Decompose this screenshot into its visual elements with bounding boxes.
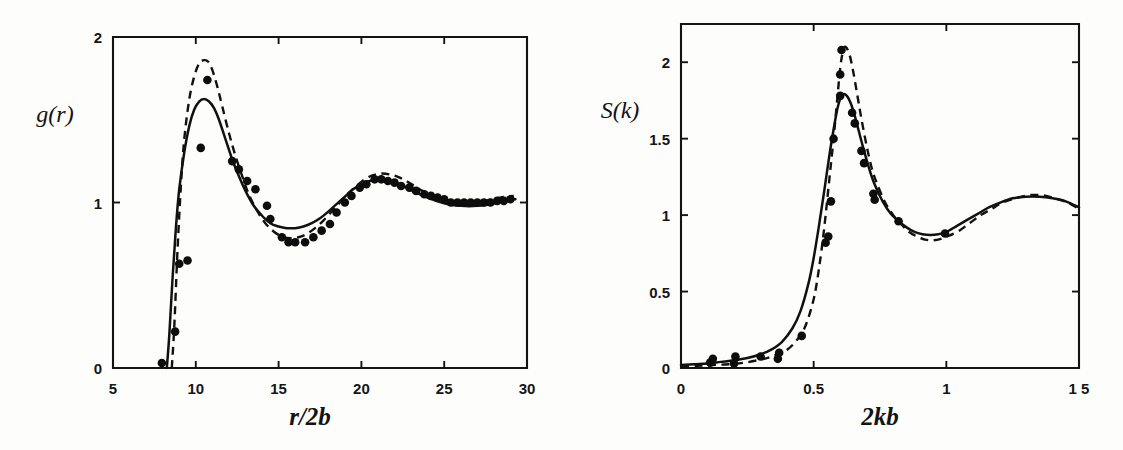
data-point — [301, 238, 310, 247]
y-axis-label: g(r) — [36, 101, 73, 127]
x-tick-label: 10 — [187, 380, 204, 397]
data-point — [775, 348, 784, 357]
x-tick-label: 5 — [109, 380, 117, 397]
right-labels-group: 00.511 500.511.52S(k)2kb — [601, 54, 1090, 430]
data-point — [870, 196, 879, 205]
data-point — [317, 226, 326, 235]
data-point — [171, 327, 180, 336]
x-tick-label: 0.5 — [803, 380, 824, 397]
data-point — [941, 229, 950, 238]
data-point — [827, 197, 836, 206]
curve-solid — [167, 99, 516, 368]
x-tick-label: 30 — [519, 380, 536, 397]
data-point — [894, 217, 903, 226]
x-tick-label: 15 — [270, 380, 287, 397]
y-tick-label: 2 — [662, 54, 670, 71]
data-point — [291, 238, 300, 247]
data-point — [228, 157, 237, 166]
data-point — [848, 108, 857, 117]
curve-dashed — [681, 47, 1079, 367]
curve-solid — [681, 94, 1079, 365]
data-point — [309, 233, 318, 242]
data-point — [709, 355, 718, 364]
data-point — [203, 76, 212, 85]
data-point — [850, 119, 859, 128]
x-tick-label: 25 — [436, 380, 453, 397]
data-point — [506, 195, 515, 204]
x-tick-label: 1 — [942, 380, 950, 397]
figure-container: 51015202530012g(r)r/2b 00.511 500.511.52… — [0, 0, 1123, 450]
data-point — [158, 359, 167, 368]
data-point — [183, 256, 192, 265]
data-point — [332, 208, 341, 217]
data-point — [829, 134, 838, 143]
data-point — [837, 46, 846, 55]
curve-dashed — [172, 60, 514, 368]
data-point — [175, 259, 184, 268]
chart-left-svg: 51015202530012g(r)r/2b — [0, 0, 561, 450]
y-tick-label: 1 — [662, 207, 670, 224]
data-point — [347, 192, 356, 201]
x-axis-label: r/2b — [289, 403, 331, 430]
data-point — [412, 187, 421, 196]
data-point — [857, 147, 866, 156]
y-tick-label: 2 — [94, 29, 102, 46]
y-tick-label: 0.5 — [649, 284, 670, 301]
data-point — [263, 202, 272, 211]
left-curves-group — [167, 60, 516, 368]
data-point — [235, 165, 244, 174]
x-tick-label: 0 — [677, 380, 685, 397]
panel-pair-distribution: 51015202530012g(r)r/2b — [0, 0, 561, 450]
data-point — [824, 232, 833, 241]
y-tick-label: 0 — [662, 360, 670, 377]
data-point — [326, 220, 335, 229]
y-axis-label: S(k) — [601, 97, 640, 123]
data-point — [266, 215, 275, 224]
y-tick-label: 1 — [94, 195, 102, 212]
data-point — [756, 352, 765, 361]
panel-structure-factor: 00.511 500.511.52S(k)2kb — [561, 0, 1123, 450]
y-tick-label: 0 — [94, 360, 102, 377]
x-tick-label: 1 5 — [1069, 380, 1090, 397]
x-tick-label: 20 — [353, 380, 370, 397]
data-point — [341, 198, 350, 207]
data-point — [196, 144, 205, 153]
chart-right-svg: 00.511 500.511.52S(k)2kb — [561, 0, 1123, 450]
right-curves-group — [681, 47, 1079, 367]
data-point — [797, 332, 806, 341]
left-datapoints-group — [158, 76, 515, 368]
data-point — [836, 70, 845, 79]
x-axis-label: 2kb — [860, 403, 899, 430]
left-labels-group: 51015202530012g(r)r/2b — [36, 29, 535, 430]
data-point — [362, 180, 371, 189]
data-point — [397, 182, 406, 191]
data-point — [243, 177, 252, 186]
data-point — [731, 352, 740, 361]
y-tick-label: 1.5 — [649, 131, 670, 148]
data-point — [836, 92, 845, 101]
data-point — [251, 185, 260, 194]
data-point — [860, 159, 869, 168]
